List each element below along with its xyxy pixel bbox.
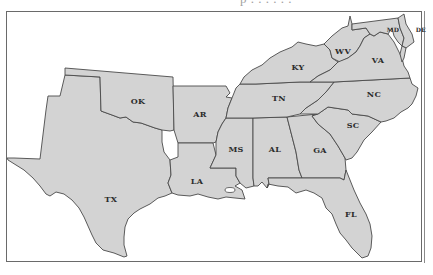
label-fl: FL: [345, 209, 357, 219]
label-sc: SC: [347, 120, 360, 130]
label-al: AL: [268, 144, 282, 154]
lake-pontchartrain: [225, 188, 235, 193]
label-ms: MS: [228, 144, 243, 154]
label-nc: NC: [367, 89, 381, 99]
label-wv: WV: [334, 46, 351, 56]
label-ga: GA: [313, 145, 327, 155]
label-de: DE: [416, 26, 427, 33]
label-la: LA: [191, 176, 204, 186]
label-ok: OK: [131, 96, 146, 106]
label-ky: KY: [291, 62, 304, 72]
label-tn: TN: [272, 93, 286, 103]
label-va: VA: [371, 55, 385, 65]
label-ar: AR: [192, 109, 207, 119]
label-md: MD: [387, 26, 399, 33]
southern-states-map: TX OK AR LA MS AL GA FL SC NC TN KY WV V…: [0, 0, 433, 275]
label-tx: TX: [105, 194, 118, 204]
